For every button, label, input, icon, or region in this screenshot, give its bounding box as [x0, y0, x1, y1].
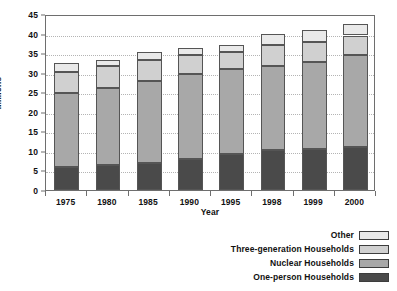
x-axis-tick-label: 1999 [303, 197, 322, 207]
bar-segment[interactable] [96, 165, 121, 190]
bar-segment[interactable] [302, 149, 327, 190]
legend-item-label: Nuclear Households [270, 258, 354, 268]
bar-group[interactable] [302, 14, 327, 190]
bar-segment[interactable] [219, 45, 244, 52]
bar-segment[interactable] [343, 36, 368, 56]
x-axis-tick-label: 1980 [97, 197, 116, 207]
bar-segment[interactable] [137, 163, 162, 190]
legend-color-swatch [359, 259, 389, 268]
y-axis-tick-label: 40 [28, 30, 38, 40]
x-axis-tick-label: 1990 [180, 197, 199, 207]
bar-segment[interactable] [343, 24, 368, 36]
chart-legend: OtherThree-generation HouseholdsNuclear … [109, 228, 389, 284]
bar-group[interactable] [137, 14, 162, 190]
bar-segment[interactable] [219, 69, 244, 154]
y-axis-ticks: 051015202530354045 [0, 0, 45, 291]
x-axis-tick-label: 1998 [262, 197, 281, 207]
bar-group[interactable] [343, 14, 368, 190]
bar-segment[interactable] [96, 66, 121, 88]
x-axis-tick-mark [375, 191, 376, 196]
bar-segment[interactable] [54, 72, 79, 93]
bar-segment[interactable] [302, 42, 327, 62]
bar-segment[interactable] [261, 34, 286, 45]
x-axis-tick-mark [169, 191, 170, 196]
bar-segment[interactable] [219, 52, 244, 70]
legend-item[interactable]: Other [109, 228, 389, 242]
legend-item[interactable]: One-person Households [109, 270, 389, 284]
x-axis-tick-label: 2000 [345, 197, 364, 207]
x-axis-title: Year [45, 207, 375, 217]
bar-segment[interactable] [302, 62, 327, 149]
plot-area [45, 15, 375, 191]
bar-segment[interactable] [219, 154, 244, 190]
y-axis-tick-label: 35 [28, 49, 38, 59]
bar-segment[interactable] [137, 60, 162, 81]
bar-segment[interactable] [96, 88, 121, 165]
bar-segment[interactable] [96, 60, 121, 66]
x-axis-tick-mark [251, 191, 252, 196]
bar-segment[interactable] [178, 48, 203, 55]
legend-item-label: Other [331, 230, 354, 240]
y-axis-tick-label: 10 [28, 147, 38, 157]
x-axis-tick-mark [45, 191, 46, 196]
legend-item[interactable]: Three-generation Households [109, 242, 389, 256]
bar-segment[interactable] [178, 159, 203, 190]
y-axis-tick-label: 45 [28, 10, 38, 20]
bar-segment[interactable] [137, 81, 162, 163]
bar-group[interactable] [178, 14, 203, 190]
y-axis-tick-label: 25 [28, 88, 38, 98]
chart-container: Millions 051015202530354045 197519801985… [0, 0, 397, 291]
bar-segment[interactable] [54, 167, 79, 190]
bar-segment[interactable] [54, 93, 79, 167]
bar-group[interactable] [219, 14, 244, 190]
bars-layer [46, 16, 374, 190]
bar-segment[interactable] [343, 55, 368, 147]
legend-item[interactable]: Nuclear Households [109, 256, 389, 270]
x-axis-tick-mark [128, 191, 129, 196]
y-axis-tick-label: 30 [28, 69, 38, 79]
legend-color-swatch [359, 245, 389, 254]
bar-segment[interactable] [178, 55, 203, 74]
legend-color-swatch [359, 273, 389, 282]
bar-segment[interactable] [261, 66, 286, 150]
bar-segment[interactable] [343, 147, 368, 190]
bar-group[interactable] [96, 14, 121, 190]
bar-segment[interactable] [302, 30, 327, 43]
bar-segment[interactable] [137, 52, 162, 59]
y-axis-tick-label: 0 [33, 186, 38, 196]
x-axis-tick-mark [293, 191, 294, 196]
bar-group[interactable] [54, 14, 79, 190]
x-axis-tick-label: 1985 [138, 197, 157, 207]
y-axis-tick-label: 5 [33, 166, 38, 176]
legend-color-swatch [359, 231, 389, 240]
bar-segment[interactable] [261, 150, 286, 190]
legend-item-label: One-person Households [253, 272, 354, 282]
x-axis-tick-label: 1995 [221, 197, 240, 207]
x-axis-tick-mark [86, 191, 87, 196]
bar-group[interactable] [261, 14, 286, 190]
bar-segment[interactable] [178, 74, 203, 159]
x-axis-tick-mark [210, 191, 211, 196]
bar-segment[interactable] [261, 45, 286, 66]
bar-segment[interactable] [54, 63, 79, 72]
legend-item-label: Three-generation Households [231, 244, 354, 254]
x-axis-tick-label: 1975 [56, 197, 75, 207]
y-axis-tick-label: 15 [28, 127, 38, 137]
x-axis-tick-mark [334, 191, 335, 196]
y-axis-tick-label: 20 [28, 108, 38, 118]
